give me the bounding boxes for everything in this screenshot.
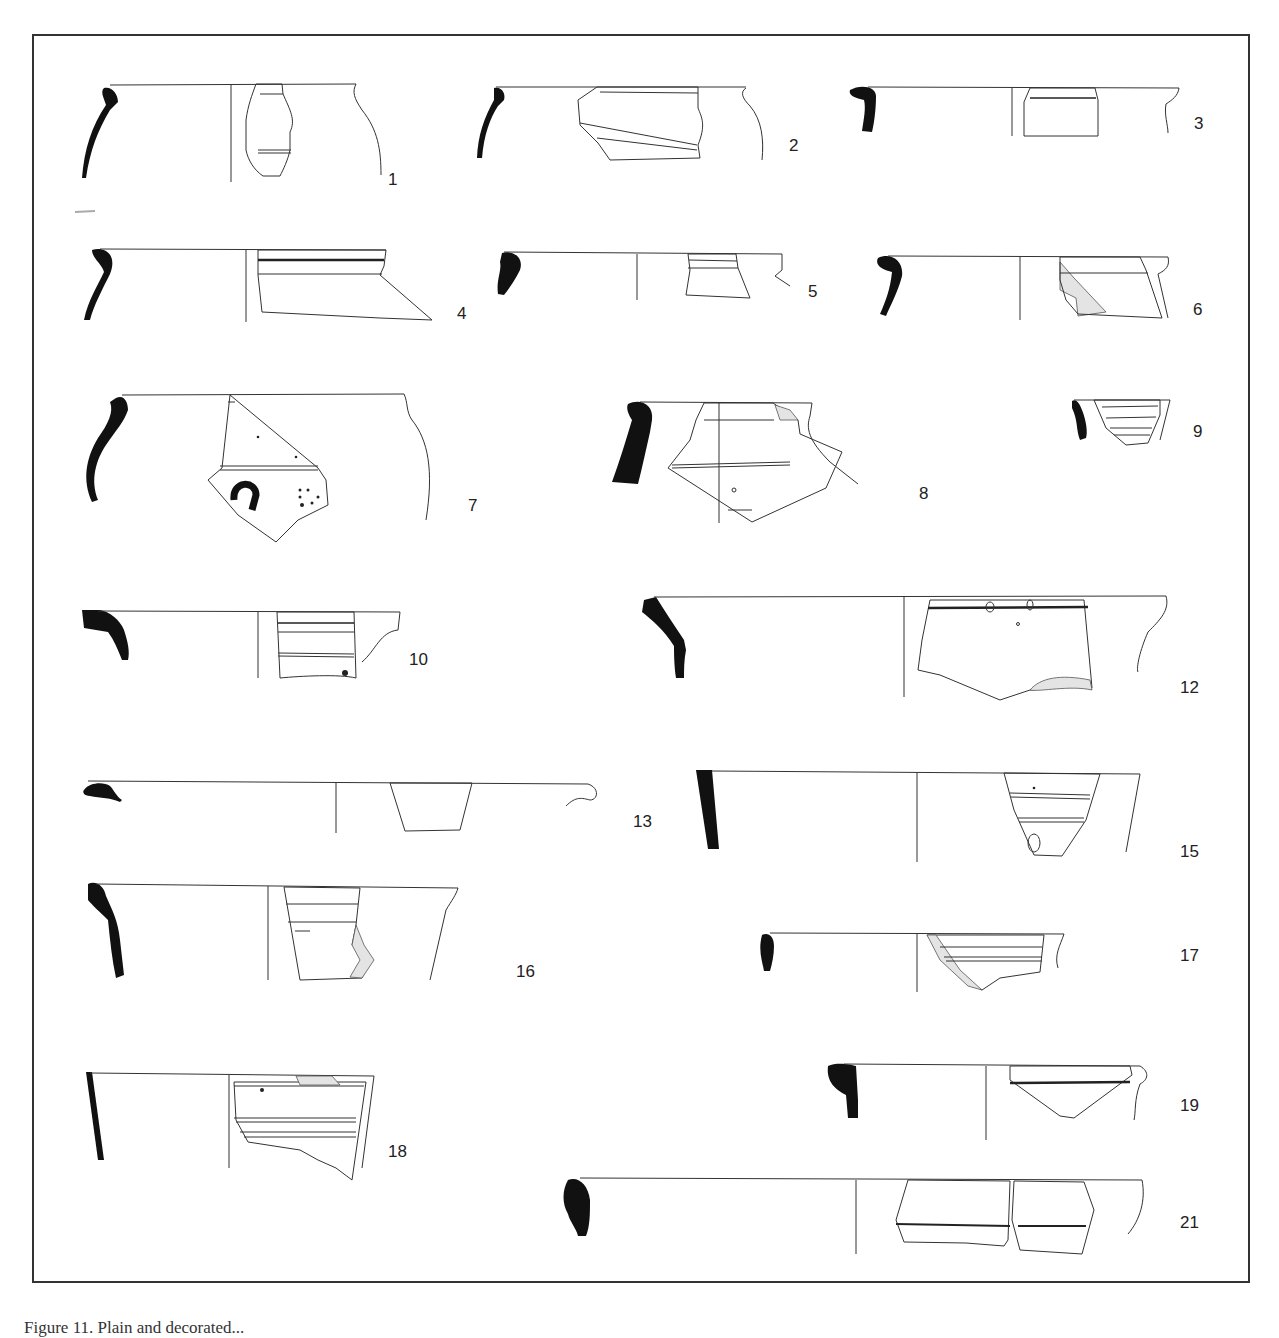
sherd-1 [82, 84, 381, 182]
sherd-19 [828, 1064, 1147, 1140]
sherd-12 [642, 596, 1167, 700]
figure-caption: Figure 11. Plain and decorated... [24, 1318, 244, 1338]
figure-label-13: 13 [633, 812, 652, 832]
stray-mark [75, 211, 95, 212]
figure-label-15: 15 [1180, 842, 1199, 862]
sherd-4 [84, 249, 432, 322]
figure-label-19: 19 [1180, 1096, 1199, 1116]
sherd-8 [612, 402, 858, 523]
figure-label-5: 5 [808, 282, 817, 302]
figure-label-7: 7 [468, 496, 477, 516]
sherd-17 [760, 933, 1064, 992]
sherd-16 [88, 883, 458, 980]
sherd-6 [877, 256, 1168, 320]
sherd-3 [850, 87, 1179, 136]
figure-label-9: 9 [1193, 422, 1202, 442]
figure-label-18: 18 [388, 1142, 407, 1162]
sherd-7 [86, 394, 429, 542]
figure-label-17: 17 [1180, 946, 1199, 966]
figure-label-21: 21 [1180, 1213, 1199, 1233]
sherd-15 [696, 770, 1140, 862]
sherd-13 [83, 781, 596, 833]
sherd-5 [498, 252, 790, 300]
figure-label-16: 16 [516, 962, 535, 982]
figure-label-10: 10 [409, 650, 428, 670]
figure-label-3: 3 [1194, 114, 1203, 134]
figure-label-12: 12 [1180, 678, 1199, 698]
figure-label-4: 4 [457, 304, 466, 324]
figure-label-2: 2 [789, 136, 798, 156]
sherd-10 [82, 610, 400, 678]
figure-label-6: 6 [1193, 300, 1202, 320]
sherd-9 [1072, 400, 1170, 445]
sherd-18 [86, 1072, 374, 1180]
sherd-21 [564, 1178, 1144, 1254]
sherd-2 [477, 87, 763, 160]
figure-label-8: 8 [919, 484, 928, 504]
figure-label-1: 1 [388, 170, 397, 190]
